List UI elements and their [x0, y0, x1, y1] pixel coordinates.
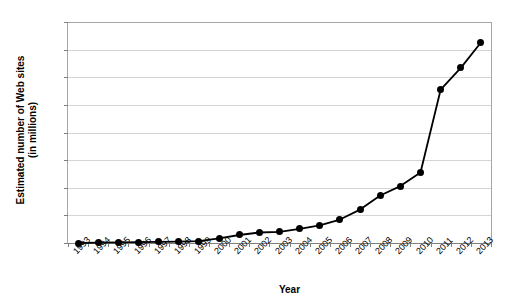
data-point [256, 229, 263, 236]
plot-area: 0100200300400500600700800 [67, 22, 492, 244]
y-axis-title: Estimated number of Web sites (in millio… [15, 20, 39, 240]
x-axis-title: Year [0, 284, 509, 295]
y-axis-title-line2: (in millions) [27, 20, 39, 240]
data-point [397, 183, 404, 190]
web-sites-line-chart: Estimated number of Web sites (in millio… [0, 0, 509, 303]
data-point [417, 169, 424, 176]
plot-inner: 0100200300400500600700800 [68, 22, 491, 243]
y-axis-title-line1: Estimated number of Web sites [15, 56, 26, 205]
data-point [357, 206, 364, 213]
x-tick-mark [68, 243, 69, 247]
series-line [68, 22, 491, 243]
data-point [377, 192, 384, 199]
